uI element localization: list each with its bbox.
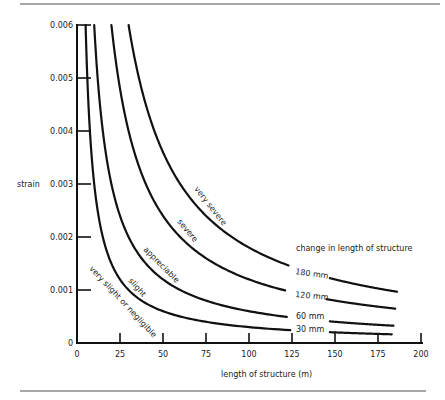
y-tick-label: 0.004	[50, 127, 73, 136]
x-tick-label: 75	[201, 350, 211, 359]
y-tick-label: 0.003	[50, 180, 73, 189]
x-tick-label: 150	[327, 350, 342, 359]
x-tick-label: 0	[74, 350, 79, 359]
curve-60mm	[94, 25, 287, 317]
curve-180mm	[129, 25, 289, 265]
y-tick-label: 0.001	[50, 286, 73, 295]
y-tick-label: 0	[68, 339, 73, 348]
zone-label-slight: slight	[127, 276, 148, 298]
curve-60mm	[330, 321, 394, 325]
y-tick-label: 0.005	[50, 74, 73, 83]
x-axis-ticks: 0255075100125150175200	[74, 333, 428, 359]
x-tick-label: 50	[158, 350, 168, 359]
y-tick-label: 0.006	[50, 21, 73, 30]
x-axis-label: length of structure (m)	[221, 370, 312, 379]
strain-vs-length-chart: 00.0010.0020.0030.0040.0050.006 02550751…	[0, 0, 445, 400]
x-tick-label: 100	[241, 350, 256, 359]
curve-120mm	[326, 299, 395, 308]
label-30mm: 30 mm	[296, 325, 325, 334]
x-tick-label: 200	[413, 350, 428, 359]
legend-title: change in length of structure	[296, 244, 413, 253]
y-tick-label: 0.002	[50, 233, 73, 242]
axes	[76, 24, 423, 343]
y-axis-label: strain	[17, 180, 40, 189]
zone-label-severe: severe	[175, 218, 199, 244]
y-axis-ticks: 00.0010.0020.0030.0040.0050.006	[50, 21, 91, 348]
label-60mm: 60 mm	[296, 312, 325, 321]
x-tick-label: 25	[115, 350, 125, 359]
label-120mm: 120 mm	[295, 290, 329, 302]
curve-30mm	[330, 332, 392, 334]
curve-180mm	[330, 278, 397, 292]
x-tick-label: 125	[284, 350, 299, 359]
x-tick-label: 175	[370, 350, 385, 359]
zone-label-very-slight: very slight or negligible	[88, 264, 159, 339]
label-180mm: 180 mm	[295, 267, 330, 281]
